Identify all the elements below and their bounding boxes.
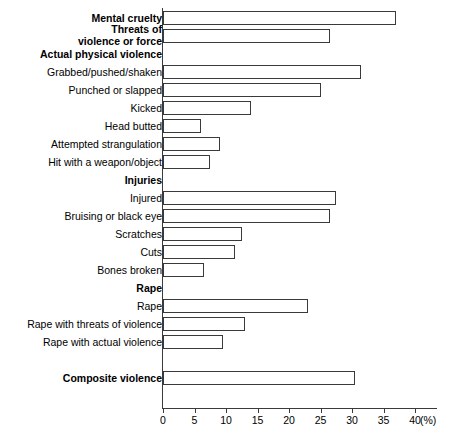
x-axis-tick-label: 35 (378, 414, 390, 426)
bar-row: Kicked (0, 99, 452, 117)
bar-row: Rape with actual violence (0, 333, 452, 351)
bar-row: Attempted strangulation (0, 135, 452, 153)
bar (163, 29, 330, 43)
bar-chart: Mental crueltyThreats ofviolence or forc… (0, 0, 452, 447)
x-axis-tick-label: 10 (220, 414, 232, 426)
x-axis-unit-label: (%) (420, 414, 436, 426)
x-axis-tick-label: 30 (346, 414, 358, 426)
row-label: Bones broken (97, 261, 162, 279)
row-label: Bruising or black eye (65, 207, 162, 225)
bar-row: Rape (0, 297, 452, 315)
x-axis-tick (289, 409, 290, 413)
plot-area: Mental crueltyThreats ofviolence or forc… (0, 0, 452, 447)
row-label: Hit with a weapon/object (48, 153, 162, 171)
bar-row: Injured (0, 189, 452, 207)
bar-row: Scratches (0, 225, 452, 243)
bar-row: Cuts (0, 243, 452, 261)
bar (163, 227, 242, 241)
bar (163, 299, 308, 313)
row-label: Actual physical violence (40, 45, 162, 63)
x-axis-tick (384, 409, 385, 413)
x-axis-tick (195, 409, 196, 413)
bar-row: Threats ofviolence or force (0, 27, 452, 45)
x-axis-tick (352, 409, 353, 413)
group-header-row (0, 351, 452, 369)
bar-row: Grabbed/pushed/shaken (0, 63, 452, 81)
bar (163, 11, 396, 25)
x-axis-tick-label: 20 (283, 414, 295, 426)
bar (163, 137, 220, 151)
bar (163, 101, 251, 115)
row-label: Kicked (130, 99, 162, 117)
row-label: Rape (137, 297, 162, 315)
bar (163, 335, 223, 349)
bar-row: Composite violence (0, 369, 452, 387)
bar (163, 191, 336, 205)
x-axis-tick (226, 409, 227, 413)
row-label: Scratches (115, 225, 162, 243)
bar-row: Bruising or black eye (0, 207, 452, 225)
bar-row: Head butted (0, 117, 452, 135)
bar (163, 209, 330, 223)
row-label: Composite violence (63, 369, 162, 387)
row-label: Cuts (140, 243, 162, 261)
group-header-row: Rape (0, 279, 452, 297)
row-label: Rape with actual violence (43, 333, 162, 351)
bar (163, 83, 321, 97)
x-axis-tick-label: 5 (192, 414, 198, 426)
bar-row: Bones broken (0, 261, 452, 279)
row-label: Injuries (125, 171, 162, 189)
row-label: Injured (130, 189, 162, 207)
bar (163, 155, 210, 169)
row-label: Punched or slapped (69, 81, 162, 99)
group-header-row: Injuries (0, 171, 452, 189)
bar (163, 263, 204, 277)
row-label: Grabbed/pushed/shaken (47, 63, 162, 81)
x-axis-tick (163, 409, 164, 413)
bar-row: Mental cruelty (0, 9, 452, 27)
bar-row: Punched or slapped (0, 81, 452, 99)
bar (163, 119, 201, 133)
x-axis-tick (321, 409, 322, 413)
row-label: Head butted (105, 117, 162, 135)
row-label: Attempted strangulation (51, 135, 162, 153)
row-label: Rape with threats of violence (27, 315, 162, 333)
x-axis-tick-label: 15 (252, 414, 264, 426)
bar-row: Hit with a weapon/object (0, 153, 452, 171)
row-label: Rape (136, 279, 162, 297)
bar (163, 65, 361, 79)
bar (163, 317, 245, 331)
x-axis-line (162, 408, 437, 409)
x-axis-tick-label: 25 (315, 414, 327, 426)
bar (163, 371, 355, 385)
x-axis-tick (415, 409, 416, 413)
bar (163, 245, 235, 259)
group-header-row: Actual physical violence (0, 45, 452, 63)
x-axis-tick (258, 409, 259, 413)
x-axis-tick-label: 0 (160, 414, 166, 426)
bar-row: Rape with threats of violence (0, 315, 452, 333)
